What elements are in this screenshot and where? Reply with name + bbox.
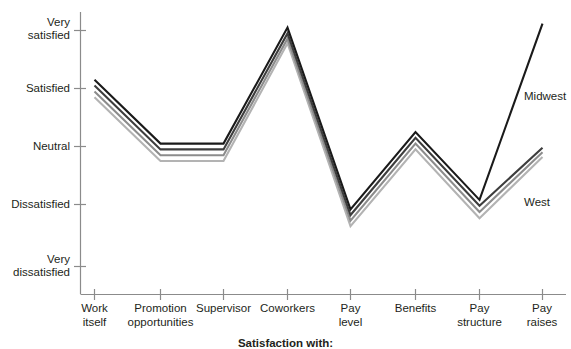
series-line-midwest — [95, 24, 543, 210]
series-line-south — [95, 39, 543, 221]
x-tick-label-pay-raises-line2: raises — [513, 316, 571, 330]
x-tick-label-coworkers: Coworkers — [250, 302, 325, 316]
series-label-midwest: Midwest — [524, 90, 566, 102]
x-tick-label-pay-raises-line1: Pay — [513, 302, 571, 316]
y-tick-label-very-satisfied-line1: Very — [0, 16, 70, 29]
x-tick-label-pay-structure-line2: structure — [443, 316, 516, 330]
x-tick-label-work-itself-line1: Work — [64, 302, 125, 316]
x-tick-label-benefits: Benefits — [382, 302, 449, 316]
x-tick-label-work-itself: Work itself — [64, 302, 125, 329]
y-tick-label-very-satisfied-line2: satisfied — [0, 29, 70, 42]
x-tick-label-promotion-opportunities-line2: opportunities — [117, 316, 204, 330]
y-tick-label-neutral: Neutral — [0, 140, 70, 153]
chart-plot-area — [0, 0, 571, 349]
series-label-west: West — [524, 196, 550, 208]
series-line-west — [95, 43, 543, 226]
x-axis-caption: Satisfaction with: — [0, 337, 571, 349]
x-tick-label-pay-level: Pay level — [322, 302, 379, 329]
x-tick-label-work-itself-line2: itself — [64, 316, 125, 330]
y-tick-label-very-dissatisfied-line1: Very — [0, 253, 70, 266]
x-tick-label-pay-structure: Pay structure — [443, 302, 516, 329]
y-tick-label-very-satisfied: Very satisfied — [0, 16, 70, 42]
y-tick-label-dissatisfied: Dissatisfied — [0, 198, 70, 211]
series-line-northeast — [95, 33, 543, 215]
x-tick-label-pay-level-line1: Pay — [322, 302, 379, 316]
x-tick-label-pay-level-line2: level — [322, 316, 379, 330]
satisfaction-line-chart: Very satisfied Satisfied Neutral Dissati… — [0, 0, 571, 349]
x-tick-label-pay-structure-line1: Pay — [443, 302, 516, 316]
y-tick-label-satisfied: Satisfied — [0, 82, 70, 95]
data-series-group — [95, 24, 543, 227]
x-tick-label-pay-raises: Pay raises — [513, 302, 571, 329]
y-tick-label-very-dissatisfied: Very dissatisfied — [0, 253, 70, 279]
y-tick-label-very-dissatisfied-line2: dissatisfied — [0, 266, 70, 279]
